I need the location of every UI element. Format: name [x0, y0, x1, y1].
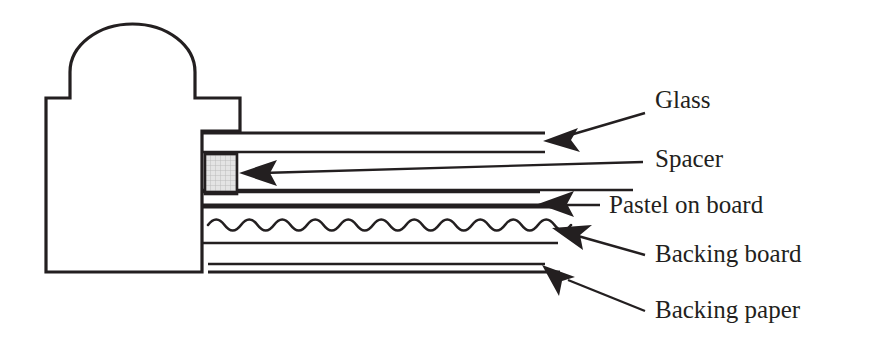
callout-pastel-on-board: Pastel on board — [538, 191, 764, 218]
arrow-head-glass — [543, 128, 580, 152]
corrugation-wave — [208, 220, 571, 231]
callout-glass: Glass — [543, 86, 711, 152]
frame-moulding-profile — [46, 24, 240, 272]
layer-glass — [202, 133, 545, 152]
layer-backing-paper — [208, 264, 560, 272]
glazing-package — [202, 133, 633, 272]
spacer-block — [205, 154, 237, 194]
layer-backing-board — [202, 220, 571, 244]
label-pastel-on-board: Pastel on board — [609, 191, 764, 218]
label-backing-paper: Backing paper — [655, 296, 801, 323]
frame-cross-section-diagram: Glass Spacer Pastel on board Backing boa… — [0, 0, 887, 360]
diagram-root: Glass Spacer Pastel on board Backing boa… — [0, 0, 887, 360]
label-glass: Glass — [655, 86, 711, 113]
layer-pastel-on-board — [202, 192, 560, 206]
callout-backing-paper: Backing paper — [542, 265, 801, 323]
label-backing-board: Backing board — [655, 240, 802, 267]
label-spacer: Spacer — [655, 145, 724, 172]
callout-backing-board: Backing board — [552, 225, 802, 267]
